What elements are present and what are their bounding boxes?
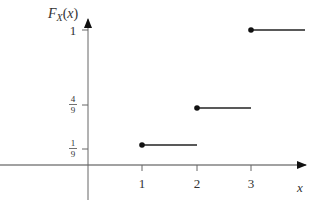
y-tick-label-1-9: 1 9 — [69, 138, 77, 159]
step-3 — [248, 27, 305, 33]
closed-dot — [139, 142, 145, 148]
closed-dot — [248, 27, 254, 33]
svg-text:9: 9 — [71, 149, 76, 159]
cdf-step-chart: FX(x) 1 4 9 1 9 1 2 3 x — [0, 0, 323, 210]
x-tick-label-2: 2 — [194, 176, 201, 191]
step-2 — [194, 105, 251, 111]
closed-dot — [194, 105, 200, 111]
x-tick-label-1: 1 — [139, 176, 146, 191]
y-axis-label: FX(x) — [47, 6, 79, 23]
x-tick-label-3: 3 — [248, 176, 255, 191]
svg-text:9: 9 — [71, 105, 76, 115]
y-tick-label-4-9: 4 9 — [69, 94, 77, 115]
step-1 — [139, 142, 197, 148]
x-axis-label: x — [296, 180, 303, 195]
svg-text:1: 1 — [71, 138, 76, 148]
y-tick-label-1: 1 — [70, 23, 77, 38]
svg-text:4: 4 — [71, 94, 76, 104]
